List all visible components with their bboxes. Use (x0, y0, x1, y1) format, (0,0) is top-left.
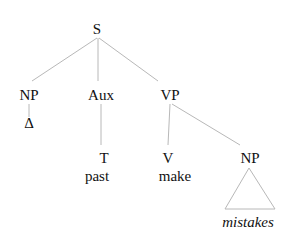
node-delta: Δ (24, 115, 34, 131)
leaf-make: make (159, 168, 192, 184)
edge-s-np (32, 38, 97, 81)
node-np-subject: NP (19, 87, 38, 103)
leaf-mistakes: mistakes (222, 214, 274, 230)
syntax-tree: S NP Aux VP Δ T past V make NP mistakes (0, 0, 304, 245)
edge-vp-np (172, 104, 240, 145)
node-s: S (93, 21, 101, 37)
node-v: V (163, 150, 174, 166)
edge-s-vp (99, 38, 158, 81)
edge-vp-v (168, 104, 170, 145)
node-aux: Aux (88, 87, 114, 103)
node-np-object: NP (240, 150, 259, 166)
leaf-past: past (85, 168, 110, 184)
np-triangle (225, 168, 275, 209)
node-vp: VP (160, 87, 179, 103)
node-t: T (99, 150, 108, 166)
